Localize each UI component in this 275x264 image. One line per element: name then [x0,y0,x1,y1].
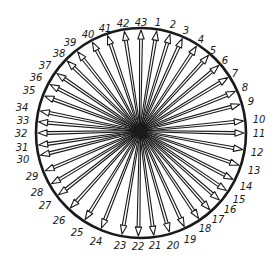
point-label-27: 27 [39,200,52,211]
point-label-8: 8 [242,82,248,93]
point-label-40: 40 [82,29,95,40]
point-label-22: 22 [132,241,145,252]
point-label-34: 34 [16,102,29,113]
point-label-14: 14 [240,181,253,192]
point-label-16: 16 [224,204,237,215]
point-label-17: 17 [212,214,225,225]
point-label-21: 21 [149,240,162,251]
point-label-31: 31 [16,142,29,153]
point-label-26: 26 [53,215,66,226]
point-label-12: 12 [251,147,264,158]
point-label-7: 7 [232,68,239,79]
point-label-18: 18 [199,223,212,234]
point-label-11: 11 [253,128,266,139]
point-label-24: 24 [90,236,103,247]
point-label-25: 25 [71,227,84,238]
point-label-28: 28 [31,187,44,198]
point-label-41: 41 [99,23,112,34]
point-label-9: 9 [248,96,254,107]
point-label-19: 19 [184,234,197,245]
point-label-43: 43 [135,17,148,28]
point-label-2: 2 [170,19,176,30]
point-label-1: 1 [155,17,161,28]
arrow-37 [57,74,140,132]
point-label-35: 35 [23,85,36,96]
arrow-25 [85,131,140,220]
point-label-30: 30 [17,154,30,165]
center-hub [134,125,146,137]
point-label-32: 32 [15,128,28,139]
point-label-20: 20 [167,240,180,251]
point-label-42: 42 [117,18,130,29]
point-label-38: 38 [53,48,66,59]
point-label-33: 33 [17,115,30,126]
point-label-4: 4 [198,34,204,45]
point-label-23: 23 [114,240,127,251]
point-label-37: 37 [39,60,52,71]
point-label-13: 13 [248,165,261,176]
point-label-36: 36 [30,72,43,83]
point-label-5: 5 [210,45,216,56]
radial-arrow-diagram: 1234567891011121314151617181920212223242… [0,0,275,264]
point-label-3: 3 [183,25,189,36]
point-label-10: 10 [253,114,266,125]
point-label-6: 6 [222,55,228,66]
point-label-39: 39 [64,37,77,48]
point-label-29: 29 [26,171,39,182]
